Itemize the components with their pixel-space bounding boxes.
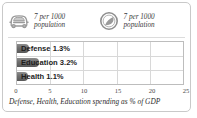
- x-tick-0: 0: [14, 87, 17, 95]
- x-tick-15: 15: [115, 87, 122, 95]
- stats-strip: 7 per 1000 population 7 per 1000 populat…: [7, 6, 186, 36]
- chart-caption: Defense, Health, Education spending as %…: [9, 97, 189, 106]
- gridline-15: [117, 42, 118, 84]
- bar-label-defense: Defense 1.3%: [21, 44, 70, 53]
- x-tick-5: 5: [48, 87, 51, 95]
- header-divider: [8, 37, 185, 38]
- bar-label-education: Education 3.2%: [21, 58, 77, 67]
- x-axis: 0 5 10 15 20 25: [16, 87, 186, 96]
- telephone-circle-icon: [97, 10, 121, 32]
- car-icon: [7, 10, 31, 32]
- stat-chart-card: 7 per 1000 population 7 per 1000 populat…: [2, 2, 191, 112]
- bar-chart: Defense 1.3% Education 3.2% Health 1.1%: [8, 41, 186, 89]
- gridline-20: [150, 42, 151, 84]
- x-tick-25: 25: [183, 87, 190, 95]
- stat-item-cars: 7 per 1000 population: [7, 6, 97, 36]
- x-tick-10: 10: [81, 87, 88, 95]
- rowline-1: [17, 56, 183, 57]
- plot-area: Defense 1.3% Education 3.2% Health 1.1%: [16, 41, 184, 85]
- gridline-10: [83, 42, 84, 84]
- bar-label-health: Health 1.1%: [21, 72, 64, 81]
- stat-item-telephones: 7 per 1000 population: [97, 6, 187, 36]
- rowline-2: [17, 70, 183, 71]
- stat-label-telephones: 7 per 1000 population: [121, 13, 155, 30]
- x-tick-20: 20: [149, 87, 156, 95]
- stat-label-cars: 7 per 1000 population: [31, 13, 65, 30]
